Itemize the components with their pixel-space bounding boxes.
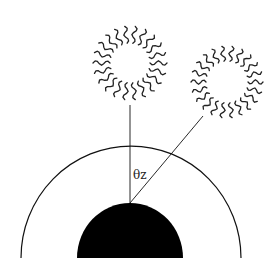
sun-overhead-icon [93, 26, 167, 99]
zenith-angle-diagram: θz [0, 0, 278, 275]
earth-semicircle [77, 203, 183, 258]
sun-oblique-icon [191, 46, 263, 117]
sun-ray-line [130, 116, 203, 203]
zenith-angle-label: θz [133, 168, 147, 182]
